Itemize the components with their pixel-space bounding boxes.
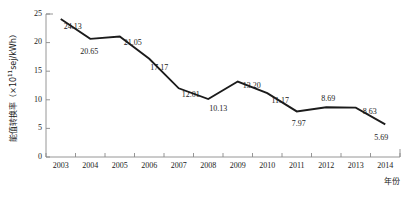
x-tick-label: 2005 <box>112 161 128 170</box>
data-point-label: 12.01 <box>182 90 200 99</box>
data-point-label: 8.63 <box>363 107 377 116</box>
data-point-label: 10.13 <box>209 104 227 113</box>
x-tick-label: 2009 <box>230 161 246 170</box>
data-point-label: 20.65 <box>80 47 98 56</box>
y-axis-title-unit-close: sej/kWh） <box>9 30 18 70</box>
data-point-label: 8.69 <box>321 94 335 103</box>
data-point-label: 24.13 <box>64 22 82 31</box>
x-tick-label: 2011 <box>289 161 305 170</box>
data-point-label: 7.97 <box>292 119 306 128</box>
data-point-label: 21.05 <box>124 38 142 47</box>
x-tick-label: 2010 <box>259 161 275 170</box>
chart-container: 0510152025 20032004200520062007200820092… <box>0 0 413 201</box>
y-tick-label: 0 <box>38 152 42 161</box>
x-tick-label: 2007 <box>171 161 187 170</box>
x-tick-label: 2003 <box>53 161 69 170</box>
chart-background <box>0 0 413 201</box>
line-chart: 0510152025 20032004200520062007200820092… <box>0 0 413 201</box>
x-axis-title: 年份 <box>384 176 400 186</box>
x-tick-label: 2012 <box>318 161 334 170</box>
y-axis-title-main: 能值转换率 <box>8 102 18 142</box>
data-point-label: 5.69 <box>374 133 388 142</box>
x-tick-label: 2006 <box>141 161 157 170</box>
x-tick-label: 2008 <box>200 161 216 170</box>
x-tick-label: 2013 <box>348 161 364 170</box>
y-tick-label: 15 <box>34 66 42 75</box>
y-tick-label: 25 <box>34 9 42 18</box>
data-point-label: 17.17 <box>150 63 168 72</box>
y-tick-label: 5 <box>38 123 42 132</box>
y-tick-label: 10 <box>34 95 42 104</box>
data-point-label: 11.17 <box>271 96 289 105</box>
data-point-label: 13.20 <box>243 81 261 90</box>
y-axis-title-group: 能值转换率（×1011sej/kWh） <box>7 30 18 142</box>
x-tick-label: 2004 <box>82 161 98 170</box>
x-tick-label: 2014 <box>377 161 393 170</box>
y-axis-title-unit-open: （×10 <box>9 77 18 102</box>
y-axis-title: 能值转换率（×1011sej/kWh） <box>7 30 18 142</box>
y-tick-label: 20 <box>34 37 42 46</box>
